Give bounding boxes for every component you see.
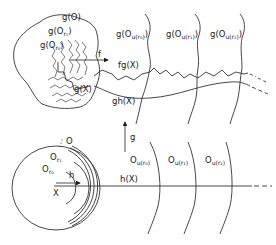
label-f: f [98,49,102,59]
top-columns [136,14,244,124]
label-Ou-r2: Ou(r₂) [205,155,225,166]
label-Or0: Or₀ [42,164,54,175]
label-gOu-r2: g(Ou(r₂)) [210,29,242,40]
label-gOr1: g(Or₁) [48,26,72,37]
label-Ou-r0: Ou(r₀) [130,155,150,166]
label-gOr0: g(Or₀) [40,40,64,51]
ellipsis-dots [59,139,62,146]
label-gO: g(O) [62,12,81,22]
label-gX: g(X) [74,84,92,94]
label-hX: h(X) [120,174,138,184]
label-gOu-r0: g(Ou(r₀)) [116,29,148,40]
label-X: X [53,188,59,198]
diagram-canvas: g(O) g(Or₁) g(Or₀) g(X) f fg(X) gh(X) g(… [0,0,276,245]
label-g: g [130,132,135,142]
label-O: O [66,136,73,146]
label-Ou-r1: Ou(r₁) [168,155,188,166]
label-fgX: fg(X) [118,60,139,70]
label-gOu-r1: g(Ou(r₁)) [166,29,198,40]
label-ghX: gh(X) [112,96,135,106]
bottom-columns [148,142,232,234]
label-Or1: Or₁ [50,152,62,163]
label-h: h [69,170,74,180]
